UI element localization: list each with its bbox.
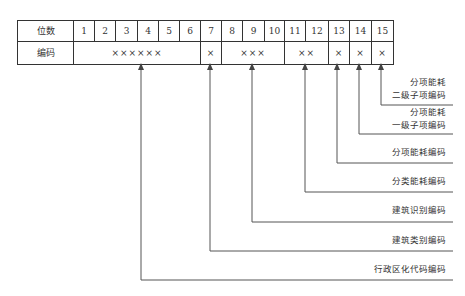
label-itemized-energy-code: 分项能耗编码 bbox=[392, 146, 446, 159]
energy-code-structure-diagram: 位数 1 2 3 4 5 6 7 8 9 10 11 12 13 14 15 编… bbox=[0, 0, 465, 296]
label-category-energy-code: 分类能耗编码 bbox=[392, 175, 446, 188]
label-level1-line1: 分项能耗 bbox=[392, 106, 446, 119]
label-building-id-code: 建筑识别编码 bbox=[392, 204, 446, 217]
label-level1-line2: 一级子项编码 bbox=[392, 119, 446, 132]
label-building-type-code: 建筑类别编码 bbox=[392, 234, 446, 247]
label-level2-subitem-code: 分项能耗 二级子项编码 bbox=[392, 76, 446, 102]
label-admin-region-code: 行政区化代码编码 bbox=[374, 263, 446, 276]
label-level1-subitem-code: 分项能耗 一级子项编码 bbox=[392, 106, 446, 132]
label-level2-line2: 二级子项编码 bbox=[392, 89, 446, 102]
label-level2-line1: 分项能耗 bbox=[392, 76, 446, 89]
